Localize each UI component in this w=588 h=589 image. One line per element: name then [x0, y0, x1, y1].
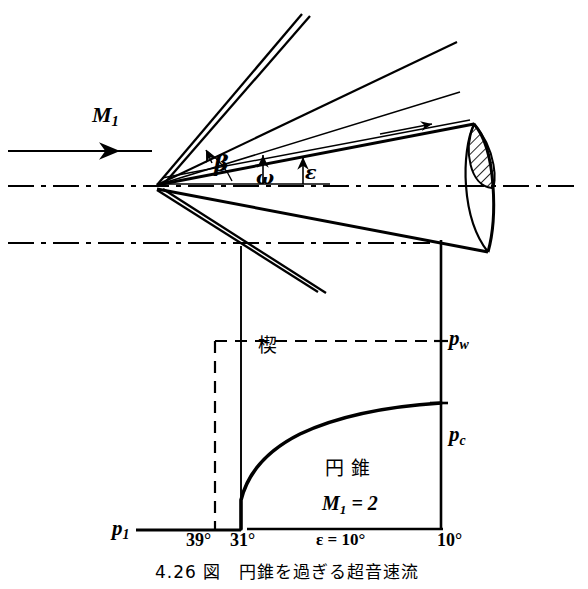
beta-angle-label: β: [214, 152, 229, 174]
pressure-cone-label: pc: [449, 424, 466, 448]
figure-vector-graphics: [0, 0, 588, 589]
cone-body: [157, 124, 494, 252]
axis-tick-10: 10°: [437, 531, 462, 549]
cone-region-label: 円錐: [325, 459, 377, 478]
wedge-region-label: 楔: [258, 336, 277, 355]
figure-caption: 4.26 図 円錐を過ぎる超音速流: [155, 564, 419, 581]
figure-supersonic-cone-flow: M1 β ω ε pw pc p1 楔 円錐 M1 = 2 39° 31° ε …: [0, 0, 588, 589]
omega-angle-label: ω: [256, 168, 274, 187]
plot-baseline-axis: [136, 529, 443, 530]
axis-tick-epsilon: ε = 10°: [316, 531, 365, 548]
cone-base-hatching: [469, 124, 495, 188]
mach-condition-label: M1 = 2: [322, 493, 378, 516]
freestream-mach-label: M1: [92, 104, 119, 129]
pressure-freestream-label: p1: [112, 518, 129, 542]
axis-tick-31: 31°: [230, 531, 255, 549]
pressure-level-ticks: [430, 341, 448, 403]
axis-tick-39: 39°: [186, 531, 211, 549]
pressure-wedge-label: pw: [449, 328, 469, 352]
epsilon-angle-label: ε: [305, 163, 317, 182]
